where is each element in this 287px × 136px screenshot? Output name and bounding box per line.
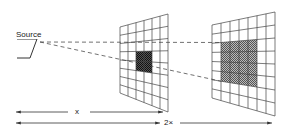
diagram-svg bbox=[0, 0, 287, 136]
distance-x-label: x bbox=[73, 107, 81, 116]
source-icon bbox=[17, 39, 37, 58]
grid-at-2x bbox=[212, 12, 275, 116]
projection-grids bbox=[120, 12, 275, 116]
grid-at-x bbox=[120, 14, 168, 112]
projection-rays bbox=[40, 42, 221, 81]
source-label: Source bbox=[14, 30, 43, 39]
distance-2x-label: 2× bbox=[162, 118, 175, 127]
diagram-canvas: Source x 2× bbox=[0, 0, 287, 136]
